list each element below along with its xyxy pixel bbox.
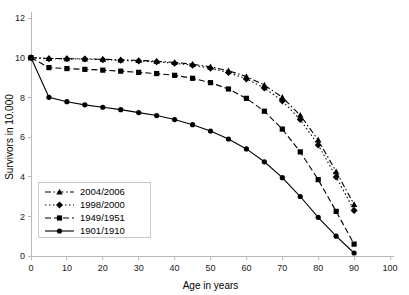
data-point [45, 55, 52, 62]
x-tick-label: 90 [349, 263, 359, 273]
data-point [225, 69, 232, 76]
data-point [351, 201, 358, 207]
legend-item-label: 1901/1910 [80, 225, 125, 236]
data-point [243, 75, 250, 82]
data-point [28, 55, 33, 60]
legend-swatch-marker [57, 228, 62, 233]
data-point [46, 95, 51, 100]
data-point [190, 76, 195, 81]
data-point [280, 175, 285, 180]
legend-item-label: 2004/2006 [80, 186, 125, 197]
data-point [153, 58, 160, 65]
data-point [118, 69, 123, 74]
data-point [280, 126, 285, 131]
data-point [279, 97, 286, 104]
y-tick-label: 4 [20, 172, 25, 182]
data-point [244, 146, 249, 151]
data-point [136, 110, 141, 115]
chart-canvas: 0246810120102030405060708090100Age in ye… [0, 0, 409, 295]
data-point [262, 159, 267, 164]
data-point [316, 177, 321, 182]
data-point [172, 73, 177, 78]
x-tick-label: 70 [277, 263, 287, 273]
data-point [171, 60, 178, 67]
y-tick-label: 0 [20, 251, 25, 261]
data-point [298, 194, 303, 199]
data-point [64, 99, 69, 104]
data-point [172, 117, 177, 122]
data-point [244, 96, 249, 101]
data-point [135, 58, 142, 65]
y-tick-label: 10 [15, 53, 25, 63]
x-tick-label: 30 [134, 263, 144, 273]
data-point [118, 107, 123, 112]
data-point [100, 68, 105, 73]
x-tick-label: 0 [28, 263, 33, 273]
x-axis-title: Age in years [183, 280, 239, 291]
y-tick-label: 6 [20, 132, 25, 142]
data-point [82, 102, 87, 107]
y-tick-label: 2 [20, 212, 25, 222]
x-tick-label: 60 [241, 263, 251, 273]
data-point [100, 105, 105, 110]
data-point [207, 65, 214, 72]
x-tick-label: 20 [98, 263, 108, 273]
data-point [189, 62, 196, 69]
data-point [352, 250, 357, 255]
data-point [298, 149, 303, 154]
x-tick-label: 80 [313, 263, 323, 273]
data-point [46, 65, 51, 70]
data-point [208, 80, 213, 85]
data-point [117, 57, 124, 64]
x-tick-label: 100 [382, 263, 397, 273]
data-point [226, 136, 231, 141]
data-point [81, 56, 88, 63]
x-tick-label: 40 [170, 263, 180, 273]
data-point [261, 85, 268, 92]
legend-swatch-marker [57, 215, 62, 220]
survivors-line-chart: 0246810120102030405060708090100Age in ye… [0, 0, 409, 295]
legend-item-label: 1998/2000 [80, 199, 125, 210]
data-point [334, 209, 339, 214]
y-tick-label: 12 [15, 13, 25, 23]
x-tick-label: 50 [205, 263, 215, 273]
data-point [351, 207, 358, 214]
data-point [154, 113, 159, 118]
y-tick-label: 8 [20, 93, 25, 103]
y-axis-title: Survivors in 10.000 [4, 94, 15, 180]
data-point [333, 174, 340, 181]
x-tick-label: 10 [62, 263, 72, 273]
data-point [99, 56, 106, 63]
data-point [64, 66, 69, 71]
data-point [316, 215, 321, 220]
data-point [208, 128, 213, 133]
data-point [190, 122, 195, 127]
data-point [136, 70, 141, 75]
chart-legend: 2004/20061998/20001949/19511901/1910 [38, 182, 150, 237]
legend-item-label: 1949/1951 [80, 212, 125, 223]
data-point [63, 55, 70, 62]
data-point [352, 242, 357, 247]
data-point [82, 67, 87, 72]
data-point [226, 86, 231, 91]
data-point [154, 71, 159, 76]
data-point [334, 234, 339, 239]
data-point [262, 109, 267, 114]
